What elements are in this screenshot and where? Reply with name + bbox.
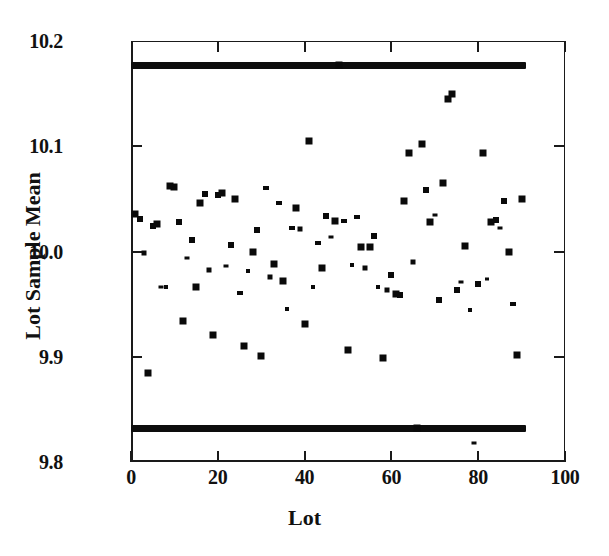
x-axis-tick-top	[390, 41, 392, 52]
data-point	[142, 250, 147, 255]
data-point	[397, 292, 403, 298]
data-point	[249, 248, 256, 255]
data-point	[263, 186, 269, 190]
data-point	[493, 217, 499, 223]
x-axis-tick-top	[477, 41, 479, 52]
x-axis-tick-label: 80	[468, 466, 487, 489]
lower-control-limit-line	[131, 425, 526, 432]
y-axis-tick-label: 10.2	[29, 30, 63, 53]
data-point	[289, 226, 295, 230]
data-point	[468, 308, 472, 312]
x-axis-tick	[304, 451, 306, 462]
data-point	[354, 215, 360, 219]
data-point	[193, 284, 200, 291]
x-axis-tick-top	[217, 41, 219, 52]
data-point	[366, 244, 373, 251]
x-axis-title: Lot	[0, 505, 609, 531]
data-point	[240, 343, 247, 350]
data-point	[311, 285, 315, 289]
y-axis-title: Lot Sample Mean	[20, 126, 46, 386]
y-axis-tick-label: 9.8	[39, 451, 63, 474]
data-point	[305, 137, 312, 144]
data-point	[458, 281, 463, 284]
data-point	[510, 302, 516, 306]
y-axis-tick	[131, 251, 142, 253]
data-point	[479, 149, 486, 156]
x-axis-tick-label: 100	[550, 466, 579, 489]
data-point	[219, 189, 226, 196]
data-point	[411, 260, 416, 265]
data-point	[363, 266, 368, 271]
data-point	[176, 219, 182, 225]
data-point	[232, 195, 239, 202]
data-point	[276, 201, 282, 205]
data-point	[371, 233, 377, 239]
data-point	[180, 317, 187, 324]
scatter-chart: 0204060801009.89.910.010.110.2 Lot Lot S…	[0, 0, 609, 556]
data-point	[341, 219, 347, 223]
data-point	[279, 277, 286, 284]
data-point	[154, 221, 161, 228]
data-point	[405, 149, 412, 156]
upper-control-limit-line	[131, 62, 526, 69]
data-point	[202, 191, 208, 197]
data-point	[454, 287, 460, 293]
data-point	[267, 274, 272, 279]
x-axis-tick-label: 20	[208, 466, 227, 489]
data-point	[210, 331, 217, 338]
y-axis-tick-right	[554, 251, 565, 253]
data-point	[185, 256, 190, 259]
data-point	[485, 277, 489, 280]
data-point	[423, 187, 429, 193]
data-point	[246, 269, 250, 273]
data-point	[497, 227, 502, 230]
data-point	[432, 213, 437, 216]
x-axis-tick	[564, 451, 566, 462]
data-point	[224, 265, 229, 268]
data-point	[207, 268, 212, 273]
data-point	[331, 217, 338, 224]
data-point	[164, 285, 168, 289]
data-point	[414, 425, 421, 432]
y-axis-tick	[131, 356, 142, 358]
data-point	[336, 62, 343, 69]
data-point	[401, 197, 408, 204]
data-point	[285, 307, 289, 311]
y-axis-tick-right	[554, 145, 565, 147]
x-axis-tick	[217, 451, 219, 462]
data-point	[436, 297, 442, 303]
x-axis-tick	[130, 451, 132, 462]
data-point	[471, 442, 476, 445]
data-point	[292, 205, 299, 212]
y-axis-tick	[131, 145, 142, 147]
data-point	[271, 261, 278, 268]
data-point	[237, 291, 243, 295]
data-point	[137, 216, 143, 222]
data-point	[514, 351, 521, 358]
data-point	[228, 242, 234, 248]
data-point	[505, 248, 512, 255]
data-point	[345, 347, 352, 354]
x-axis-tick	[390, 451, 392, 462]
plot-frame	[131, 41, 565, 462]
x-axis-tick-label: 0	[126, 466, 136, 489]
data-point	[298, 227, 303, 232]
data-point	[258, 352, 265, 359]
data-point	[418, 141, 425, 148]
data-point	[318, 265, 325, 272]
data-point	[385, 288, 390, 293]
x-axis-tick	[477, 451, 479, 462]
data-point	[376, 285, 380, 289]
data-point	[171, 184, 178, 191]
data-point	[462, 243, 469, 250]
x-axis-tick-label: 60	[382, 466, 401, 489]
data-point	[379, 354, 386, 361]
y-axis-tick-right	[554, 356, 565, 358]
x-axis-tick-label: 40	[295, 466, 314, 489]
data-point	[350, 263, 354, 267]
data-point	[475, 281, 481, 287]
data-point	[197, 200, 204, 207]
data-point	[518, 195, 525, 202]
data-point	[301, 321, 308, 328]
x-axis-tick-top	[304, 41, 306, 52]
